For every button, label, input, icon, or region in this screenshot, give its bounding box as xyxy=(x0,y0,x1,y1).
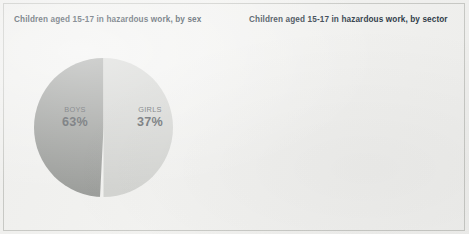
panel-by-sector: Children aged 15-17 in hazardous work, b… xyxy=(236,0,469,234)
pie-label-boys: BOYS 63% xyxy=(47,106,103,129)
panel-by-sex: Children aged 15-17 in hazardous work, b… xyxy=(0,0,236,234)
pie-label-girls: GIRLS 37% xyxy=(122,106,178,129)
hazardous-work-pie-chart-figure: Children aged 15-17 in hazardous work, b… xyxy=(0,0,469,234)
chart-title-by-sex: Children aged 15-17 in hazardous work, b… xyxy=(14,15,201,24)
pie-label-boys-name: BOYS xyxy=(47,106,103,113)
pie-label-girls-value: 37% xyxy=(122,116,178,129)
pie-label-girls-name: GIRLS xyxy=(122,106,178,113)
chart-title-by-sector: Children aged 15-17 in hazardous work, b… xyxy=(249,15,448,24)
pie-label-boys-value: 63% xyxy=(47,116,103,129)
